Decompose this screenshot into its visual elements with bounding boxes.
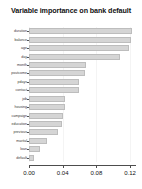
- y-axis-tick: [27, 141, 29, 142]
- y-axis-tick-label: balance: [14, 38, 27, 42]
- y-axis-tick-label: duration: [14, 29, 27, 33]
- y-axis-tick-label: contact: [15, 88, 27, 92]
- bar: [29, 79, 79, 85]
- y-axis-tick: [27, 116, 29, 117]
- y-axis-tick: [27, 99, 29, 100]
- bar-row: duration: [29, 28, 136, 34]
- bar: [29, 104, 65, 110]
- bar-row: loan: [29, 146, 136, 152]
- y-axis-tick: [27, 40, 29, 41]
- y-axis-tick: [27, 90, 29, 91]
- bar-row: default: [29, 155, 136, 161]
- y-axis-tick-label: previous: [13, 130, 27, 134]
- y-axis-tick: [27, 124, 29, 125]
- x-axis-tick-label: 0.08: [91, 170, 103, 177]
- bar-row: day: [29, 54, 136, 60]
- bar: [29, 28, 132, 34]
- bar-row: campaign: [29, 113, 136, 119]
- y-axis-tick-label: housing: [14, 105, 27, 109]
- bar: [29, 129, 58, 135]
- x-axis-tick-label: 0.04: [57, 170, 69, 177]
- y-axis-tick-label: day: [21, 55, 27, 59]
- chart-title: Variable importance on bank default: [0, 6, 142, 15]
- y-axis-tick: [27, 65, 29, 66]
- y-axis-tick: [27, 149, 29, 150]
- y-axis-tick-label: month: [17, 63, 27, 67]
- x-axis-line: [29, 165, 136, 166]
- x-axis-tick-label: 0.12: [124, 170, 136, 177]
- plot-area: durationbalanceagedaymonthpoutcomepdaysc…: [29, 27, 136, 162]
- y-axis-tick: [27, 57, 29, 58]
- x-axis-tick-label: 0.00: [23, 170, 35, 177]
- bar: [29, 62, 86, 68]
- bar: [29, 113, 63, 119]
- y-axis-tick-label: poutcome: [11, 71, 27, 75]
- bar: [29, 70, 85, 76]
- bar-row: previous: [29, 129, 136, 135]
- bar: [29, 45, 129, 51]
- x-axis-tick: [96, 165, 97, 168]
- x-axis-tick: [130, 165, 131, 168]
- bar: [29, 37, 131, 43]
- bar-row: education: [29, 121, 136, 127]
- bar-row: housing: [29, 104, 136, 110]
- x-axis-tick: [29, 165, 30, 168]
- y-axis-tick-label: education: [11, 122, 27, 126]
- y-axis-tick-label: loan: [20, 147, 27, 151]
- bar-row: contact: [29, 87, 136, 93]
- variable-importance-chart: Variable importance on bank default dura…: [0, 0, 142, 189]
- y-axis-tick: [27, 48, 29, 49]
- bar-row: pdays: [29, 79, 136, 85]
- bar-row: marital: [29, 138, 136, 144]
- y-axis-tick-label: marital: [16, 139, 27, 143]
- bar: [29, 146, 40, 152]
- y-axis-tick-label: age: [21, 46, 27, 50]
- y-axis-tick: [27, 158, 29, 159]
- y-axis-tick-label: default: [16, 156, 27, 160]
- bar: [29, 155, 34, 161]
- bar-row: month: [29, 62, 136, 68]
- bar-row: job: [29, 96, 136, 102]
- bar: [29, 121, 62, 127]
- y-axis-tick: [27, 107, 29, 108]
- bar: [29, 138, 47, 144]
- y-axis-tick-label: campaign: [11, 114, 27, 118]
- y-axis-tick-label: job: [22, 97, 27, 101]
- bar-row: balance: [29, 37, 136, 43]
- bar-row: poutcome: [29, 70, 136, 76]
- bar-row: age: [29, 45, 136, 51]
- y-axis-tick: [27, 31, 29, 32]
- bar: [29, 96, 65, 102]
- y-axis-tick-label: pdays: [17, 80, 27, 84]
- x-axis-tick: [63, 165, 64, 168]
- bar: [29, 87, 79, 93]
- bar: [29, 54, 120, 60]
- y-axis-tick: [27, 73, 29, 74]
